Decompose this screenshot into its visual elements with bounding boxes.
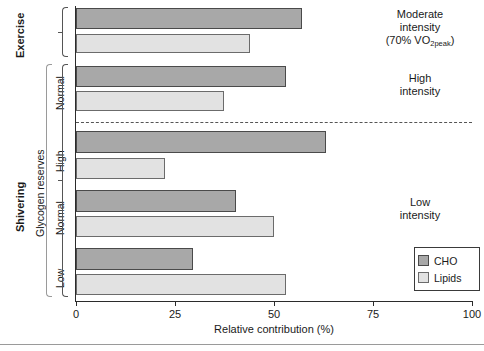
legend-label-cho: CHO [434,255,457,267]
bracket-exercise [62,7,68,57]
legend: CHO Lipids [414,247,480,291]
bar-lipids-shivering-normal-low [76,216,274,237]
axis-label-glycogen-reserves: Glycogen reserves [34,149,46,237]
figure-root: 0 25 50 75 100 Relative contribution (%)… [0,0,484,351]
annotation-moderate-line3-sub: 2peak [430,39,450,48]
bar-lipids-shivering-normal-high [76,91,224,111]
x-tick-75 [373,301,374,306]
bracket-exercise-nub [58,32,62,33]
x-tick-label-75: 75 [353,308,393,320]
intensity-divider [76,122,472,123]
bar-cho-shivering-normal-high [76,66,286,87]
bar-cho-shivering-normal-low [76,190,236,212]
x-tick-50 [274,301,275,306]
annotation-low-intensity: Low intensity [360,196,480,222]
bar-cho-shivering-high-low [76,131,326,153]
bottom-rule [0,344,484,345]
annotation-high-line2: intensity [360,85,480,98]
legend-item-cho: CHO [418,252,476,269]
x-axis-title: Relative contribution (%) [76,323,472,335]
x-tick-label-0: 0 [56,308,96,320]
annotation-moderate-line3-pre: (70% VO [386,34,431,46]
annotation-moderate-intensity: Moderate intensity (70% VO2peak) [360,8,480,48]
annotation-high-line1: High [360,72,480,85]
group-label-exercise: Exercise [14,13,26,58]
legend-swatch-cho [418,255,429,266]
annotation-low-line2: intensity [360,209,480,222]
legend-label-lipids: Lipids [434,272,461,284]
legend-swatch-lipids [418,272,429,283]
annotation-high-intensity: High intensity [360,72,480,98]
bracket-shivering [62,64,68,297]
legend-item-lipids: Lipids [418,269,476,286]
bracket-shivering-nub [58,180,62,181]
x-tick-label-25: 25 [155,308,195,320]
bar-lipids-exercise [76,34,250,53]
bracket-glycogen-reserves [46,64,52,297]
annotation-moderate-line3-post: ) [451,34,455,46]
bar-cho-exercise [76,8,302,29]
group-label-shivering: Shivering [14,182,26,232]
bar-cho-shivering-low-low [76,248,193,270]
annotation-moderate-line3: (70% VO2peak) [360,34,480,48]
x-tick-label-100: 100 [452,308,484,320]
x-tick-0 [76,301,77,306]
annotation-moderate-line1: Moderate [360,8,480,21]
annotation-moderate-line2: intensity [360,21,480,34]
bar-lipids-shivering-high-low [76,158,165,179]
x-tick-100 [472,301,473,306]
bar-lipids-shivering-low-low [76,274,286,295]
annotation-low-line1: Low [360,196,480,209]
x-tick-25 [175,301,176,306]
x-tick-label-50: 50 [254,308,294,320]
